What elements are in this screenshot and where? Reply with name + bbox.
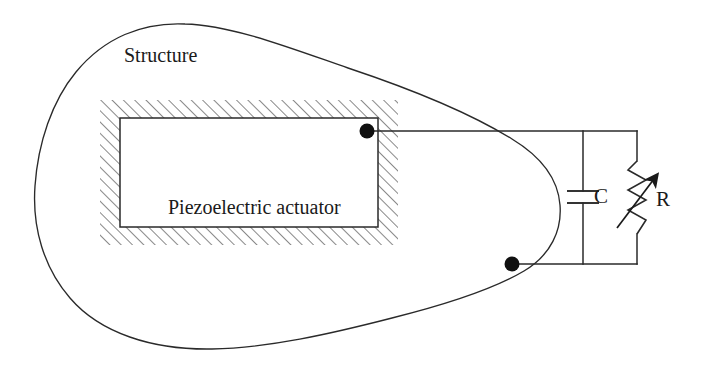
structure-label: Structure bbox=[124, 44, 197, 67]
schematic-svg bbox=[0, 0, 701, 366]
lower-terminal-dot bbox=[505, 257, 520, 272]
resistor-zigzag bbox=[628, 161, 646, 234]
resistor-label: R bbox=[656, 187, 670, 212]
figure-canvas: Structure Piezoelectric actuator C R bbox=[0, 0, 701, 366]
upper-terminal-dot bbox=[360, 124, 375, 139]
resistor-symbol bbox=[617, 161, 657, 234]
actuator-label: Piezoelectric actuator bbox=[168, 196, 341, 219]
capacitor-label: C bbox=[594, 184, 608, 209]
resistor-arrow bbox=[617, 175, 657, 228]
